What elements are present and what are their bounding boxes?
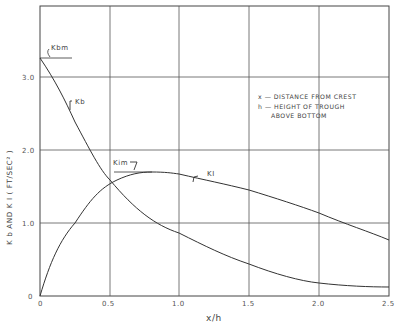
kb-pointer [70,101,72,110]
x-tick-0: 0 [38,300,43,308]
y-tick-2.0: 2.0 [22,147,35,155]
grid [40,6,389,296]
kbm-label: Kbm [51,44,69,52]
ki-pointer [193,176,198,182]
x-axis-label: x/h [206,313,222,323]
x-tick-1.0: 1.0 [172,300,185,308]
ki-curve [40,172,389,296]
plot-frame [40,6,389,296]
x-tick-2.5: 2.5 [382,300,395,308]
kim-pointer [130,162,137,170]
note-h-definition: h — HEIGHT OF TROUGH [258,103,345,110]
kbm-pointer [48,49,50,57]
x-tick-2.0: 2.0 [312,300,325,308]
y-tick-3.0: 3.0 [22,74,35,82]
kb-label: Kb [75,98,85,106]
x-tick-0.5: 0.5 [102,300,115,308]
x-tick-1.5: 1.5 [242,300,255,308]
ki-label: KI [207,170,215,178]
kim-label: Kim [113,159,128,167]
chart: Kbm Kb Kim KI x — DISTANCE FROM CREST h … [0,0,399,323]
y-tick-0: 0 [28,293,33,301]
y-axis-label: K b AND K I ( FT/SEC² ) [5,150,14,245]
note-h-definition-cont: ABOVE BOTTOM [271,112,327,119]
y-tick-1.0: 1.0 [22,220,35,228]
note-x-definition: x — DISTANCE FROM CREST [258,93,356,100]
